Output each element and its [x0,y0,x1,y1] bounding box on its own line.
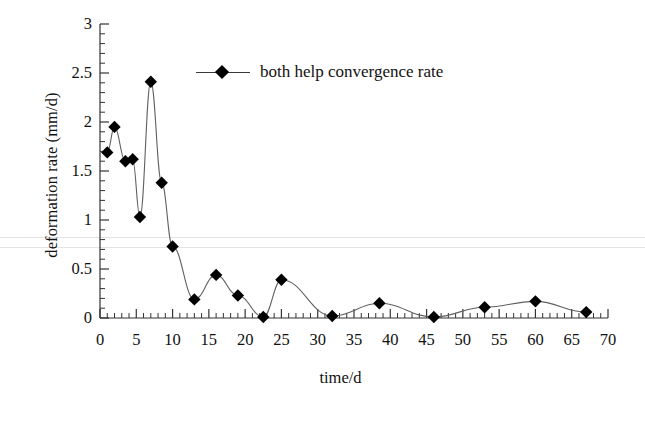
y-tick-label: 1 [46,212,92,229]
y-tick-label: 1.5 [46,163,92,180]
x-tick-label: 20 [225,332,265,349]
x-tick-label: 65 [552,332,592,349]
y-tick-label: 2.5 [46,65,92,82]
x-tick-label: 10 [153,332,193,349]
data-point-markers [101,76,592,324]
x-tick-label: 40 [370,332,410,349]
x-tick-label: 50 [443,332,483,349]
x-tick-label: 0 [80,332,120,349]
x-tick-label: 35 [334,332,374,349]
x-tick-label: 30 [298,332,338,349]
y-tick-label: 2 [46,114,92,131]
x-tick-label: 60 [515,332,555,349]
chart-figure: deformation rate (mm/d) time/d both help… [0,0,645,426]
x-tick-label: 25 [261,332,301,349]
x-tick-label: 70 [588,332,628,349]
axis-ticks [100,24,608,318]
x-tick-label: 45 [407,332,447,349]
y-tick-label: 0 [46,310,92,327]
x-tick-label: 15 [189,332,229,349]
plot-area [0,0,645,426]
axes-lines [100,24,608,318]
x-tick-label: 55 [479,332,519,349]
x-tick-label: 5 [116,332,156,349]
y-tick-label: 0.5 [46,261,92,278]
data-series-line [107,82,586,317]
y-tick-label: 3 [46,16,92,33]
